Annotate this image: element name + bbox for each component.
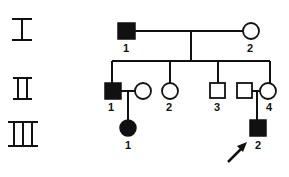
number-I-2: 2 xyxy=(247,42,253,54)
number-II-1: 1 xyxy=(108,101,114,113)
individual-III-2 xyxy=(250,120,266,136)
number-II-2: 2 xyxy=(166,101,172,113)
individual-II-4 xyxy=(260,83,276,99)
generation-label-I xyxy=(12,19,32,40)
generation-label-II xyxy=(13,78,32,99)
number-I-1: 1 xyxy=(123,42,129,54)
individual-I-1 xyxy=(118,23,135,39)
individual-I-2 xyxy=(243,23,259,39)
proband-arrow-icon xyxy=(228,142,247,162)
individual-II-1 xyxy=(105,83,121,99)
individual-II-3 xyxy=(210,83,225,98)
individual-II-1-spouse xyxy=(135,83,151,99)
individual-II-4-spouse xyxy=(237,83,252,98)
generation-label-III xyxy=(8,122,38,146)
number-III-2: 2 xyxy=(255,139,261,151)
individual-II-2 xyxy=(162,83,178,99)
individual-III-1 xyxy=(120,120,136,136)
number-II-3: 3 xyxy=(214,101,220,113)
pedigree-chart: 1 2 1 2 3 4 1 2 xyxy=(0,0,289,177)
number-III-1: 1 xyxy=(125,139,131,151)
number-II-4: 4 xyxy=(266,101,273,113)
